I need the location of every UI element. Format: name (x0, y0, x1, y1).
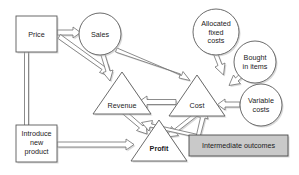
node-intermediate-outcomes-label: Intermediate outcomes (202, 141, 276, 150)
influence-diagram: Price Sales Allocated fixed costs Bought (0, 0, 299, 175)
node-cost[interactable]: Cost (169, 75, 227, 118)
node-revenue[interactable]: Revenue (93, 72, 153, 116)
node-variable-costs[interactable]: Variable costs (240, 84, 284, 128)
node-profit-label: Profit (150, 144, 169, 153)
node-revenue-label: Revenue (108, 101, 137, 110)
node-introduce-new-product-label-line3: product (25, 147, 49, 156)
diagram-canvas: Price Sales Allocated fixed costs Bought (0, 0, 299, 175)
node-introduce-new-product-label-line2: new (30, 138, 44, 147)
node-variable-costs-label-line1: Variable (248, 96, 274, 105)
node-introduce-new-product[interactable]: Introduce new product (16, 125, 59, 164)
node-allocated-fixed-costs-label-line3: costs (208, 36, 225, 45)
node-introduce-new-product-label-line1: Introduce (22, 129, 52, 138)
nodes-layer: Price Sales Allocated fixed costs Bought (16, 9, 290, 164)
node-allocated-fixed-costs[interactable]: Allocated fixed costs (193, 9, 241, 57)
edge-introduce-new-product-to-profit (57, 139, 135, 151)
node-intermediate-outcomes[interactable]: Intermediate outcomes (189, 135, 290, 158)
node-bought-in-items-label-line1: Bought (244, 53, 267, 62)
node-variable-costs-label-line2: costs (253, 105, 270, 114)
node-price[interactable]: Price (16, 16, 59, 54)
node-cost-label: Cost (190, 101, 205, 110)
node-sales-label: Sales (91, 30, 109, 39)
node-sales[interactable]: Sales (79, 13, 123, 57)
edge-sales-to-cost (116, 48, 192, 82)
node-price-label: Price (28, 30, 44, 39)
node-bought-in-items-label-line2: in items (243, 62, 268, 71)
